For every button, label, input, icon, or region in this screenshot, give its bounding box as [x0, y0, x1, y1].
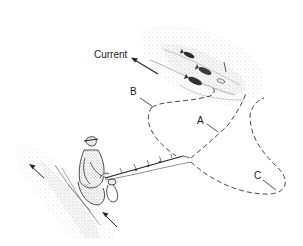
label-a: A	[197, 116, 204, 126]
upstream-water	[140, 25, 264, 105]
label-c-leader	[263, 180, 276, 190]
label-a-leader	[207, 124, 218, 132]
label-c: C	[254, 171, 261, 181]
label-b-leader	[140, 98, 152, 106]
fishing-rod	[105, 154, 191, 180]
fishing-diagram: Current B A C	[0, 0, 303, 246]
label-b: B	[130, 87, 137, 97]
angler-figure	[78, 137, 118, 205]
diagram-canvas	[0, 0, 303, 246]
current-label: Current	[94, 50, 127, 60]
